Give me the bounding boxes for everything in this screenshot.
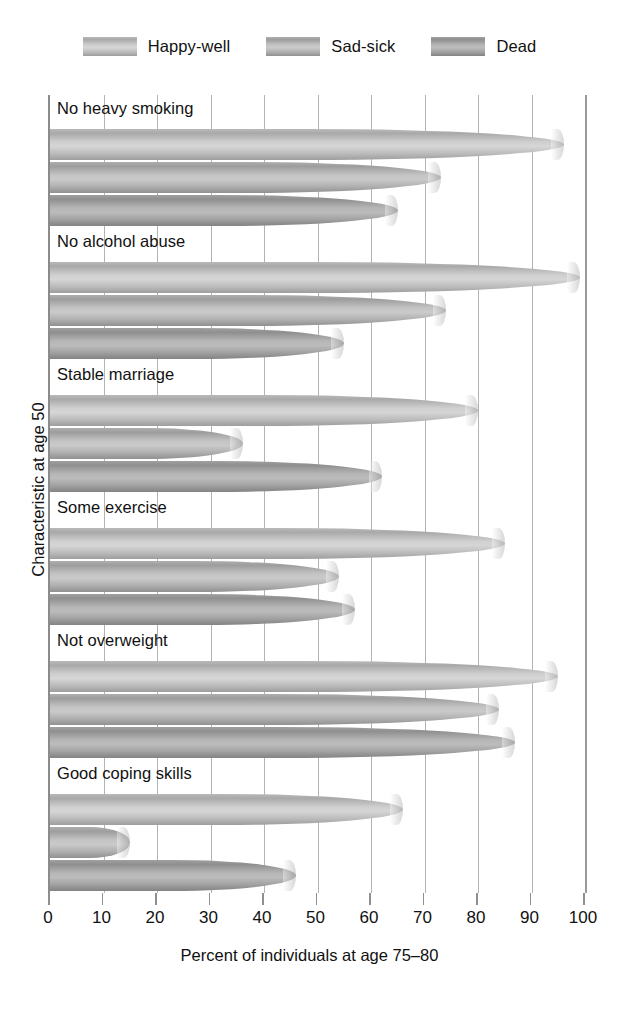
- x-tick-label-90: 90: [520, 908, 539, 928]
- legend-item-happy-well: Happy-well: [83, 37, 231, 56]
- bar-group: Not overweight: [50, 627, 585, 760]
- bar-sad-sick: [50, 295, 446, 326]
- bar-sad-sick: [50, 162, 441, 193]
- x-tick-label-70: 70: [413, 908, 432, 928]
- x-tick-30: [209, 893, 211, 905]
- gridline-100: [585, 95, 587, 893]
- x-tick-80: [476, 893, 478, 905]
- legend-item-sad-sick: Sad-sick: [266, 37, 395, 56]
- group-label: Some exercise: [57, 498, 167, 517]
- x-tick-90: [530, 893, 532, 905]
- x-tick-label-10: 10: [92, 908, 111, 928]
- bar-happy-well: [50, 794, 403, 825]
- x-tick-100: [583, 893, 585, 905]
- bar-dead: [50, 727, 515, 758]
- x-tick-label-30: 30: [199, 908, 218, 928]
- bar-happy-well: [50, 395, 478, 426]
- x-tick-50: [316, 893, 318, 905]
- x-tick-label-100: 100: [569, 908, 597, 928]
- bar-group: Good coping skills: [50, 760, 585, 893]
- bar-dead: [50, 461, 382, 492]
- x-tick-label-40: 40: [253, 908, 272, 928]
- x-axis-title: Percent of individuals at age 75–80: [0, 946, 619, 965]
- bar-group: Some exercise: [50, 494, 585, 627]
- bar-dead: [50, 594, 355, 625]
- bar-dead: [50, 195, 398, 226]
- bar-group: No alcohol abuse: [50, 228, 585, 361]
- bar-sad-sick: [50, 561, 339, 592]
- x-tick-label-0: 0: [43, 908, 52, 928]
- bar-sad-sick: [50, 428, 243, 459]
- legend-swatch-sad-sick: [266, 37, 320, 56]
- group-label: Not overweight: [57, 631, 168, 650]
- group-label: No heavy smoking: [57, 99, 194, 118]
- legend-label-sad-sick: Sad-sick: [331, 37, 395, 56]
- bars-layer: No heavy smokingNo alcohol abuseStable m…: [50, 95, 585, 893]
- x-axis-tick-labels: 0102030405060708090100: [0, 908, 619, 934]
- x-tick-60: [369, 893, 371, 905]
- bar-sad-sick: [50, 694, 499, 725]
- bar-happy-well: [50, 262, 580, 293]
- legend-swatch-dead: [431, 37, 485, 56]
- x-tick-40: [262, 893, 264, 905]
- legend-swatch-happy-well: [83, 37, 137, 56]
- bar-happy-well: [50, 528, 505, 559]
- x-tick-label-50: 50: [306, 908, 325, 928]
- x-tick-0: [48, 893, 50, 905]
- x-axis-ticks: [48, 893, 583, 905]
- group-label: Good coping skills: [57, 764, 192, 783]
- legend-label-happy-well: Happy-well: [148, 37, 231, 56]
- group-label: No alcohol abuse: [57, 232, 185, 251]
- bar-group: No heavy smoking: [50, 95, 585, 228]
- x-tick-label-60: 60: [360, 908, 379, 928]
- bar-happy-well: [50, 129, 564, 160]
- plot-area: No heavy smokingNo alcohol abuseStable m…: [48, 95, 585, 893]
- x-tick-10: [102, 893, 104, 905]
- bar-sad-sick: [50, 827, 130, 858]
- chart-legend: Happy-well Sad-sick Dead: [0, 28, 619, 64]
- x-tick-20: [155, 893, 157, 905]
- bar-group: Stable marriage: [50, 361, 585, 494]
- x-tick-label-20: 20: [146, 908, 165, 928]
- y-axis-title: Characteristic at age 50: [29, 220, 48, 760]
- bar-dead: [50, 860, 296, 891]
- bar-happy-well: [50, 661, 558, 692]
- legend-label-dead: Dead: [496, 37, 536, 56]
- x-tick-70: [423, 893, 425, 905]
- x-tick-label-80: 80: [467, 908, 486, 928]
- group-label: Stable marriage: [57, 365, 174, 384]
- bar-dead: [50, 328, 344, 359]
- legend-item-dead: Dead: [431, 37, 536, 56]
